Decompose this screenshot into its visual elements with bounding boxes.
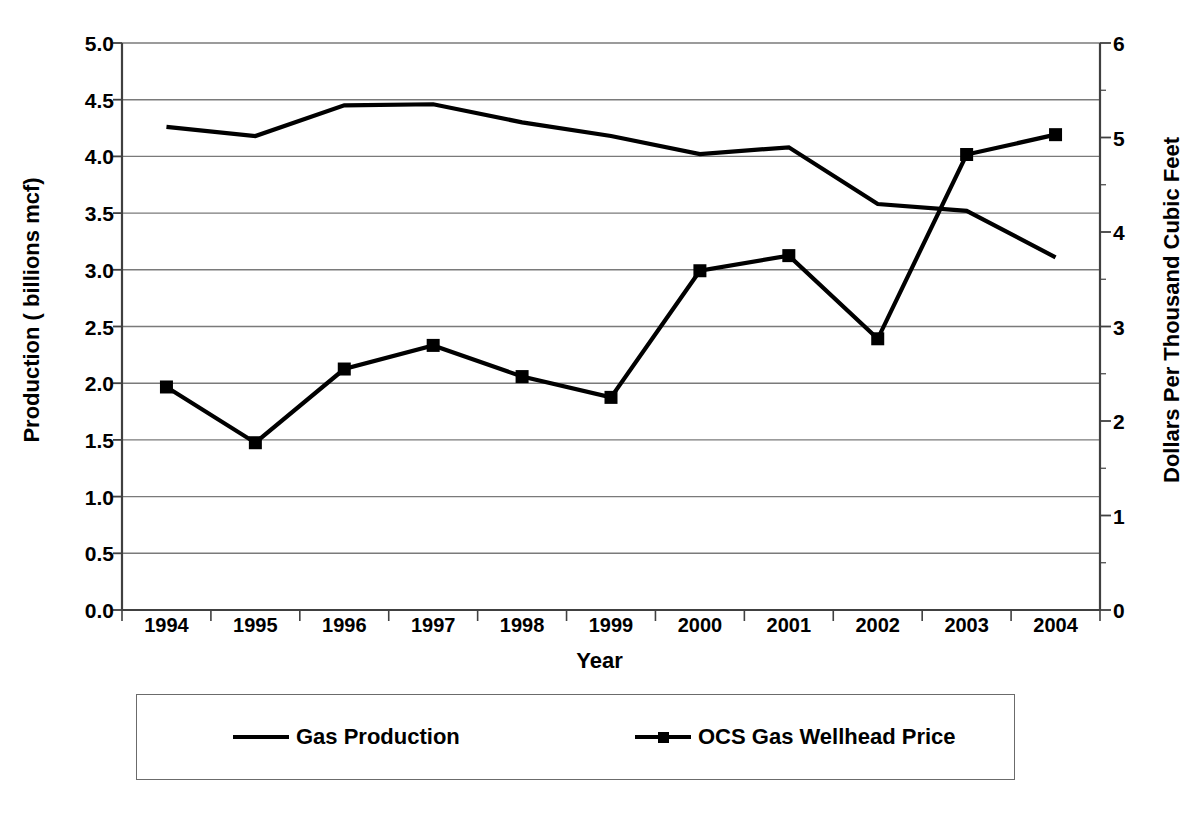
- right-axis-tick-label: 0: [1113, 600, 1141, 621]
- series-marker-1: [693, 264, 706, 277]
- x-axis-tick-label: 1998: [478, 615, 566, 635]
- left-axis-tick-label: 2.5: [48, 316, 114, 337]
- x-axis-tick-label: 2004: [1012, 615, 1100, 635]
- legend-line-swatch-icon: [233, 728, 289, 746]
- legend-entry-gas-production: Gas Production: [233, 724, 460, 750]
- tick-marks: [113, 43, 1111, 621]
- left-axis-tick-label: 4.5: [48, 89, 114, 110]
- series-marker-1: [871, 332, 884, 345]
- left-axis-tick-label: 3.0: [48, 259, 114, 280]
- x-axis-tick-label: 1997: [389, 615, 477, 635]
- x-axis-tick-label: 1994: [122, 615, 210, 635]
- legend: Gas Production OCS Gas Wellhead Price: [136, 694, 1015, 780]
- left-axis-tick-label: 1.0: [48, 486, 114, 507]
- series-marker-1: [516, 370, 529, 383]
- left-axis-tick-label: 5.0: [48, 33, 114, 54]
- legend-line-marker-swatch-icon: [635, 728, 691, 746]
- series-marker-1: [427, 339, 440, 352]
- series-marker-1: [960, 148, 973, 161]
- x-axis-tick-label: 2003: [923, 615, 1011, 635]
- left-axis-tick-label: 0.5: [48, 543, 114, 564]
- legend-entry-ocs-gas-wellhead-price: OCS Gas Wellhead Price: [635, 724, 956, 750]
- right-axis-tick-label: 6: [1113, 33, 1141, 54]
- right-axis-tick-label: 4: [1113, 222, 1141, 243]
- gridlines: [122, 43, 1100, 610]
- x-axis-tick-label: 2001: [745, 615, 833, 635]
- chart-figure: Production ( billions mcf) Dollars Per T…: [0, 0, 1199, 825]
- series-marker-1: [338, 363, 351, 376]
- legend-label-ocs-gas-wellhead-price: OCS Gas Wellhead Price: [698, 724, 956, 750]
- x-axis-tick-label: 1999: [567, 615, 655, 635]
- x-axis-tick-label: 2000: [656, 615, 744, 635]
- series-line-0: [166, 104, 1055, 257]
- series-marker-1: [782, 249, 795, 262]
- series-marker-1: [249, 436, 262, 449]
- left-axis-tick-label: 1.5: [48, 429, 114, 450]
- legend-label-gas-production: Gas Production: [296, 724, 460, 750]
- left-axis-tick-label: 0.0: [48, 600, 114, 621]
- series-marker-1: [160, 380, 173, 393]
- series-marker-1: [605, 391, 618, 404]
- x-axis-tick-label: 1995: [211, 615, 299, 635]
- x-axis-tick-label: 1996: [300, 615, 388, 635]
- series-marker-1: [1049, 128, 1062, 141]
- right-axis-tick-label: 2: [1113, 411, 1141, 432]
- right-axis-tick-label: 1: [1113, 505, 1141, 526]
- x-axis-tick-label: 2002: [834, 615, 922, 635]
- right-axis-tick-label: 5: [1113, 127, 1141, 148]
- right-axis-tick-label: 3: [1113, 316, 1141, 337]
- left-axis-tick-label: 2.0: [48, 373, 114, 394]
- left-axis-tick-label: 3.5: [48, 203, 114, 224]
- left-axis-tick-label: 4.0: [48, 146, 114, 167]
